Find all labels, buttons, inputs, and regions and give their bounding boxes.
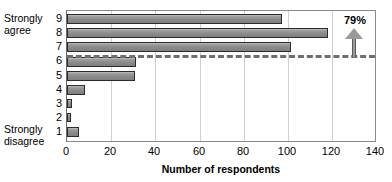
x-axis-tick-40: 40 [139,145,169,157]
threshold-dashed-line [67,55,375,58]
y-axis-top-anchor-line1: Strongly [4,13,43,25]
y-axis-tick-6: 6 [48,55,62,66]
bar-6 [67,57,136,67]
y-axis-top-anchor-line2: agree [4,25,43,37]
y-axis-tick-8: 8 [48,27,62,38]
y-axis-bottom-anchor-label: Strongly disagree [4,124,44,147]
bar-4 [67,85,85,95]
y-axis-tick-7: 7 [48,41,62,52]
y-axis-tick-3: 3 [48,98,62,109]
y-axis-top-anchor-label: Strongly agree [4,13,43,36]
bar-2 [67,113,71,122]
x-axis-tick-100: 100 [272,145,302,157]
x-axis-tick-0: 0 [51,145,81,157]
gridline-120 [332,11,333,141]
bar-8 [67,28,328,38]
bar-7 [67,42,291,52]
bar-1 [67,127,79,137]
arrow-shaft [352,38,356,57]
x-axis-tick-60: 60 [184,145,214,157]
x-axis-tick-80: 80 [228,145,258,157]
y-axis-tick-2: 2 [48,112,62,123]
x-axis-tick-20: 20 [95,145,125,157]
x-axis-tick-120: 120 [316,145,346,157]
bar-9 [67,14,282,24]
arrow-callout [343,27,365,57]
x-axis-title: Number of respondents [66,163,376,175]
y-axis-tick-1: 1 [48,126,62,137]
arrow-up-icon [345,28,363,39]
bar-chart: Strongly agree Strongly disagree 9 8 7 6… [0,0,392,182]
percent-callout-label: 79% [333,14,377,26]
y-axis-tick-4: 4 [48,84,62,95]
y-axis-bottom-anchor-line2: disagree [4,136,44,148]
bar-5 [67,71,135,81]
plot-area: 79% [66,10,376,142]
y-axis-tick-9: 9 [48,13,62,24]
y-axis-tick-5: 5 [48,70,62,81]
x-axis-tick-140: 140 [360,145,390,157]
y-axis-bottom-anchor-line1: Strongly [4,124,44,136]
bar-3 [67,99,72,108]
